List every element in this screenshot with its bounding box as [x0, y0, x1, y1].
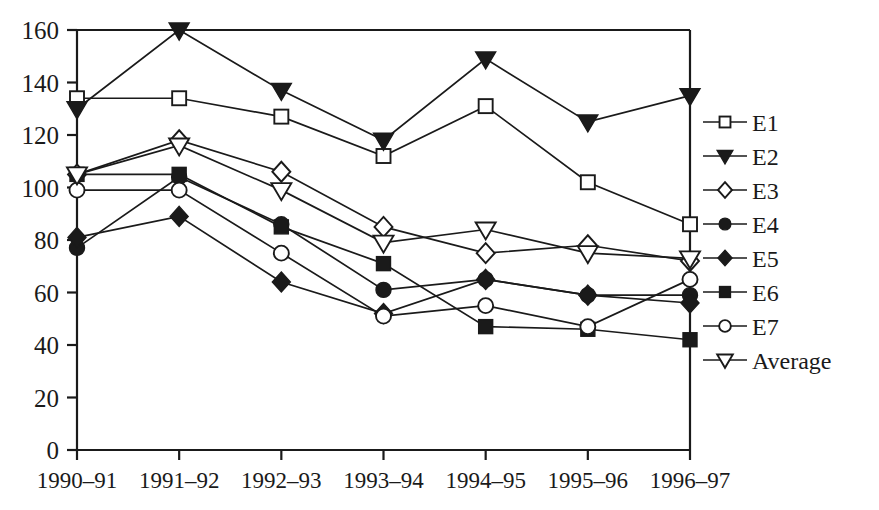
data-point-marker [374, 236, 394, 253]
legend-label: E5 [752, 246, 779, 272]
series-line [77, 30, 690, 140]
legend-item-e3[interactable]: E3 [703, 178, 779, 204]
legend-item-e4[interactable]: E4 [703, 212, 779, 238]
data-point-marker [578, 115, 598, 132]
x-axis-tick-label: 1996–97 [650, 468, 731, 493]
y-axis-tick-labels: 020406080100120140160 [22, 17, 60, 464]
x-axis-tick-label: 1992–93 [241, 468, 322, 493]
data-point-marker [169, 23, 189, 40]
chart-container: 020406080100120140160 1990–911991–921992… [0, 0, 879, 510]
data-point-marker [580, 319, 595, 334]
y-axis-tick-label: 0 [47, 437, 60, 464]
data-point-marker [170, 206, 188, 226]
data-point-marker [683, 333, 697, 347]
data-point-marker [172, 91, 186, 105]
line-chart: 020406080100120140160 1990–911991–921992… [0, 0, 879, 510]
data-point-marker [578, 246, 598, 263]
legend-label: Average [752, 348, 832, 374]
legend-item-e7[interactable]: E7 [703, 314, 779, 340]
data-point-marker [376, 309, 391, 324]
data-point-marker [172, 167, 186, 181]
x-axis-tick-label: 1990–91 [37, 468, 118, 493]
data-point-marker [274, 110, 288, 124]
data-point-marker [172, 183, 187, 198]
data-point-marker [67, 102, 87, 119]
legend-label: E1 [752, 110, 779, 136]
legend-label: E6 [752, 280, 779, 306]
data-point-marker [274, 246, 289, 261]
legend-label: E3 [752, 178, 779, 204]
y-axis-tick-label: 100 [22, 175, 60, 202]
data-point-marker [718, 182, 732, 198]
data-point-marker [479, 320, 493, 334]
data-point-marker [718, 250, 732, 266]
data-point-marker [719, 218, 731, 230]
legend-item-e2[interactable]: E2 [703, 144, 779, 170]
legend-label: E2 [752, 144, 779, 170]
y-axis-tick-label: 160 [22, 17, 60, 44]
data-series-group [67, 23, 700, 347]
legend-item-e6[interactable]: E6 [703, 280, 779, 306]
data-point-marker [720, 117, 731, 128]
data-point-marker [683, 217, 697, 231]
data-point-marker [719, 320, 731, 332]
series-e2 [67, 23, 700, 150]
data-point-marker [272, 162, 290, 182]
data-point-marker [376, 282, 391, 297]
y-axis-tick-label: 60 [34, 280, 59, 307]
data-point-marker [476, 52, 496, 69]
legend-item-average[interactable]: Average [703, 348, 832, 374]
data-point-marker [477, 243, 495, 263]
y-axis-tick-label: 40 [34, 332, 59, 359]
x-axis-tick-labels: 1990–911991–921992–931993–941994–951995–… [37, 468, 731, 493]
y-axis-tick-label: 80 [34, 227, 59, 254]
data-point-marker [683, 272, 698, 287]
legend-item-e5[interactable]: E5 [703, 246, 779, 272]
data-point-marker [274, 220, 288, 234]
data-point-marker [581, 175, 595, 189]
data-point-marker [377, 257, 391, 271]
data-point-marker [271, 183, 291, 200]
data-point-marker [717, 355, 733, 368]
y-axis-tick-label: 120 [22, 122, 60, 149]
legend-label: E7 [752, 314, 779, 340]
data-point-marker [579, 285, 597, 305]
y-axis-tick-label: 140 [22, 70, 60, 97]
data-point-marker [477, 269, 495, 289]
data-point-marker [720, 287, 731, 298]
data-point-marker [478, 298, 493, 313]
series-e1 [70, 91, 697, 231]
x-axis-tick-label: 1994–95 [445, 468, 526, 493]
x-axis-tick-label: 1991–92 [139, 468, 220, 493]
x-axis-tick-label: 1993–94 [343, 468, 424, 493]
x-axis-tick-label: 1995–96 [548, 468, 629, 493]
data-point-marker [272, 272, 290, 292]
legend-label: E4 [752, 212, 779, 238]
legend-item-e1[interactable]: E1 [703, 110, 779, 136]
data-point-marker [479, 99, 493, 113]
data-point-marker [375, 217, 393, 237]
data-point-marker [374, 133, 394, 150]
data-point-marker [271, 83, 291, 100]
y-axis-tick-label: 20 [34, 385, 59, 412]
data-point-marker [717, 151, 733, 164]
chart-legend: E1E2E3E4E5E6E7Average [703, 110, 832, 374]
